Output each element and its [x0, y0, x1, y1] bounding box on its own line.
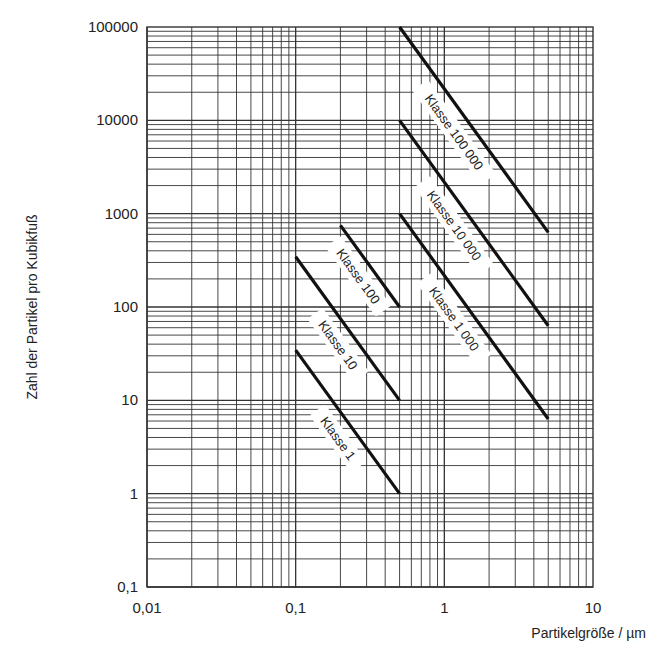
- y-axis-ticks: 0,1110100100010000100000: [88, 18, 138, 595]
- y-tick-label: 1: [130, 485, 138, 502]
- y-tick-label: 0,1: [117, 578, 138, 595]
- y-tick-label: 10000: [96, 111, 138, 128]
- class-label-text: Klasse 10: [315, 318, 361, 373]
- class-label: Klasse 10 000: [415, 176, 494, 275]
- y-tick-label: 10: [121, 391, 138, 408]
- y-tick-label: 100: [113, 298, 138, 315]
- class-label: Klasse 1 000: [417, 272, 492, 365]
- class-line: [296, 257, 400, 401]
- class-lines: Klasse 1Klasse 10Klasse 100Klasse 1 000K…: [296, 27, 549, 494]
- x-tick-label: 0,1: [285, 599, 306, 616]
- x-tick-label: 1: [440, 599, 448, 616]
- x-tick-label: 10: [585, 599, 602, 616]
- x-axis-ticks: 0,010,1110: [132, 599, 601, 616]
- y-tick-label: 1000: [105, 205, 138, 222]
- particle-class-chart: Klasse 1Klasse 10Klasse 100Klasse 1 000K…: [0, 0, 660, 658]
- y-axis-title: Zahl der Partikel pro Kubikfuß: [24, 214, 40, 399]
- x-tick-label: 0,01: [132, 599, 161, 616]
- y-tick-label: 100000: [88, 18, 138, 35]
- x-axis-title: Partikelgröße / µm: [531, 625, 646, 641]
